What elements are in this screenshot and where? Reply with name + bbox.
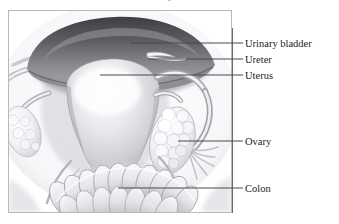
label-ovary: Ovary — [245, 136, 271, 147]
anatomy-illustration — [9, 11, 231, 212]
illustration-frame — [8, 10, 232, 213]
label-urinary-bladder: Urinary bladder — [245, 38, 312, 49]
label-uterus: Uterus — [245, 70, 273, 81]
cropped-title-fragment: . — [168, 0, 178, 2]
figure-container: . — [0, 0, 339, 224]
label-ureter: Ureter — [245, 54, 272, 65]
label-colon: Colon — [245, 183, 271, 194]
